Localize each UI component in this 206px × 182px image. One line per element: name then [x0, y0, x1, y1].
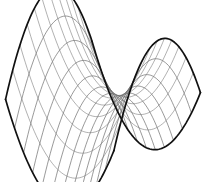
surface-fill-layer: [6, 0, 201, 182]
surface-fill-region: [6, 0, 201, 182]
figure-canvas: [0, 0, 206, 182]
saddle-surface-plot: [0, 0, 206, 182]
